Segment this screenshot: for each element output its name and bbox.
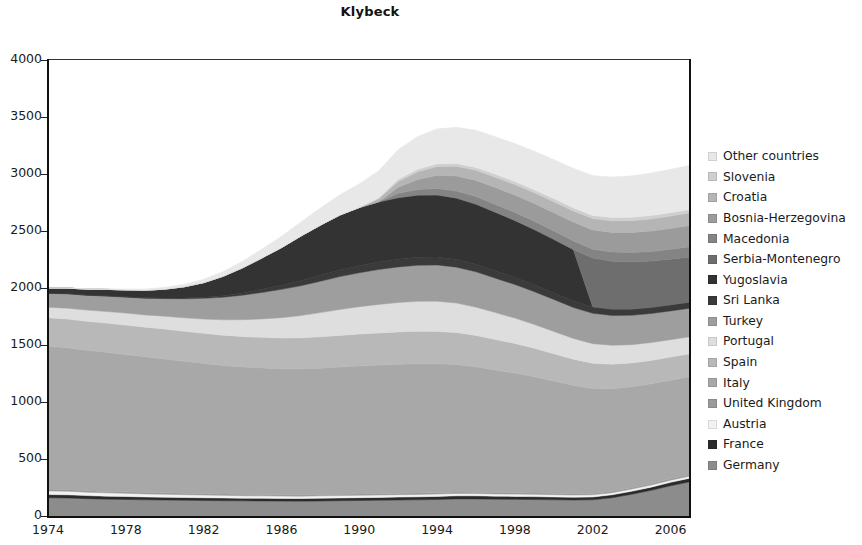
- legend-swatch-icon: [708, 193, 717, 202]
- legend-item-label: Croatia: [723, 191, 767, 203]
- stacked-area-svg: [48, 60, 690, 516]
- legend-swatch-icon: [708, 440, 717, 449]
- y-tick-mark: [41, 60, 47, 61]
- y-tick-label: 2500: [2, 224, 42, 237]
- legend-item[interactable]: Germany: [708, 455, 862, 476]
- legend-item-label: Sri Lanka: [723, 294, 780, 306]
- legend-swatch-icon: [708, 296, 717, 305]
- y-tick-mark: [41, 117, 47, 118]
- x-tick-label: 2006: [641, 522, 701, 537]
- legend-item-label: Bosnia-Herzegovina: [723, 212, 846, 224]
- y-tick-mark: [41, 288, 47, 289]
- legend-swatch-icon: [708, 461, 717, 470]
- y-tick-mark: [41, 174, 47, 175]
- y-tick-mark: [41, 231, 47, 232]
- x-tick-label: 1986: [251, 522, 311, 537]
- legend-item-label: France: [723, 438, 764, 450]
- legend-item[interactable]: Macedonia: [708, 228, 862, 249]
- legend-swatch-icon: [708, 172, 717, 181]
- legend-item-label: Italy: [723, 377, 750, 389]
- legend-item-label: Yugoslavia: [723, 274, 788, 286]
- y-tick-label: 4000: [2, 53, 42, 66]
- x-axis-labels: 197419781982198619901994199820022006: [0, 520, 862, 545]
- x-tick-label: 1978: [96, 522, 156, 537]
- legend-item-label: Portugal: [723, 335, 774, 347]
- axis-top-border: [47, 59, 691, 60]
- legend-swatch-icon: [708, 358, 717, 367]
- y-tick-label: 2000: [2, 281, 42, 294]
- legend-item-label: Other countries: [723, 150, 819, 162]
- y-tick-label: 1500: [2, 338, 42, 351]
- legend-item-label: Slovenia: [723, 171, 775, 183]
- chart-page: Klybeck 05001000150020002500300035004000…: [0, 0, 862, 545]
- legend-item[interactable]: Slovenia: [708, 167, 862, 188]
- legend-item-label: United Kingdom: [723, 397, 822, 409]
- y-tick-label: 1000: [2, 395, 42, 408]
- legend-item-label: Macedonia: [723, 233, 790, 245]
- legend-swatch-icon: [708, 337, 717, 346]
- legend-item[interactable]: Bosnia-Herzegovina: [708, 208, 862, 229]
- y-tick-label: 3000: [2, 167, 42, 180]
- legend-item[interactable]: Portugal: [708, 331, 862, 352]
- legend-swatch-icon: [708, 420, 717, 429]
- legend-item[interactable]: Italy: [708, 373, 862, 394]
- axis-right-border: [689, 59, 691, 518]
- legend-item[interactable]: United Kingdom: [708, 393, 862, 414]
- x-tick-label: 1974: [18, 522, 78, 537]
- y-axis-line: [47, 59, 49, 518]
- legend-item[interactable]: Serbia-Montenegro: [708, 249, 862, 270]
- plot-area: [48, 60, 690, 516]
- y-tick-label: 500: [2, 452, 42, 465]
- x-tick-label: 1982: [174, 522, 234, 537]
- legend-item[interactable]: Austria: [708, 414, 862, 435]
- x-axis-line: [47, 516, 691, 518]
- x-tick-label: 1990: [329, 522, 389, 537]
- legend-item-label: Austria: [723, 418, 766, 430]
- legend-item[interactable]: Croatia: [708, 187, 862, 208]
- legend-swatch-icon: [708, 214, 717, 223]
- legend-item-label: Serbia-Montenegro: [723, 253, 840, 265]
- chart-legend: Other countriesSloveniaCroatiaBosnia-Her…: [708, 146, 862, 476]
- y-tick-label: 3500: [2, 110, 42, 123]
- legend-swatch-icon: [708, 234, 717, 243]
- y-tick-mark: [41, 402, 47, 403]
- legend-swatch-icon: [708, 152, 717, 161]
- x-tick-label: 1998: [485, 522, 545, 537]
- legend-item[interactable]: Other countries: [708, 146, 862, 167]
- y-axis-labels: 05001000150020002500300035004000: [0, 0, 42, 545]
- legend-item[interactable]: Sri Lanka: [708, 290, 862, 311]
- legend-swatch-icon: [708, 378, 717, 387]
- x-tick-label: 1994: [407, 522, 467, 537]
- legend-item[interactable]: France: [708, 434, 862, 455]
- y-tick-mark: [41, 345, 47, 346]
- y-tick-mark: [41, 459, 47, 460]
- legend-swatch-icon: [708, 275, 717, 284]
- legend-item-label: Germany: [723, 459, 780, 471]
- legend-swatch-icon: [708, 255, 717, 264]
- legend-item-label: Spain: [723, 356, 757, 368]
- legend-swatch-icon: [708, 399, 717, 408]
- x-tick-label: 2002: [563, 522, 623, 537]
- page-title: Klybeck: [0, 4, 740, 19]
- legend-item[interactable]: Spain: [708, 352, 862, 373]
- legend-item[interactable]: Turkey: [708, 311, 862, 332]
- legend-swatch-icon: [708, 317, 717, 326]
- legend-item[interactable]: Yugoslavia: [708, 270, 862, 291]
- legend-item-label: Turkey: [723, 315, 763, 327]
- y-tick-mark: [41, 516, 47, 517]
